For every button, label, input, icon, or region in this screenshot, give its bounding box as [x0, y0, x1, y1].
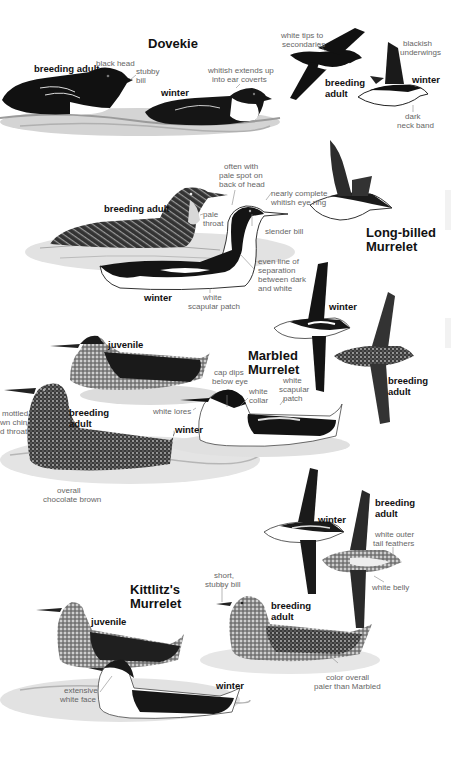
tag-long-billed-breeding: breeding adult: [104, 203, 169, 214]
tag-dovekie-winter: winter: [161, 87, 189, 98]
species-title-kittlitz-line2: Murrelet: [130, 597, 181, 611]
note-blackish-underwings-1: blackish: [403, 39, 432, 48]
field-guide-plate: Dovekie Long-billed Murrelet Marbled Mur…: [0, 0, 453, 766]
note-white-belly: white belly: [372, 583, 409, 592]
note-blackish-underwings-2: underwings: [400, 48, 441, 57]
note-short-bill-1: short,: [214, 571, 234, 580]
note-pale-throat-2: throat: [203, 219, 223, 228]
tag-dovekie-fly-winter: winter: [412, 74, 440, 85]
note-stubby-bill-1: stubby: [136, 67, 160, 76]
tag-long-billed-winter: winter: [144, 292, 172, 303]
tag-marbled-breeding-1: breeding: [69, 407, 109, 418]
note-separation-1: even line of: [258, 257, 299, 266]
note-white-face-1: extensive: [64, 686, 98, 695]
tag-kittlitz-fly-winter: winter: [318, 514, 346, 525]
note-white-outer-tail-1: white outer: [375, 530, 414, 539]
note-separation-2: separation: [258, 266, 295, 275]
note-cap-dips-1: cap dips: [214, 368, 244, 377]
tag-marbled-juvenile: juvenile: [108, 339, 143, 350]
note-marbled-scapular-1: white: [283, 376, 302, 385]
note-cap-dips-2: below eye: [212, 377, 248, 386]
tag-kittlitz-fly-breeding-1: breeding: [375, 497, 415, 508]
tag-marbled-fly-breeding-1: breeding: [388, 375, 428, 386]
note-pale-spot-3: back of head: [219, 180, 265, 189]
note-paler-1: color overall: [326, 673, 369, 682]
species-title-dovekie: Dovekie: [148, 37, 198, 51]
note-pale-throat-1: pale: [203, 210, 218, 219]
tag-marbled-fly-winter: winter: [329, 301, 357, 312]
tag-kittlitz-breeding-1: breeding: [271, 600, 311, 611]
tag-dovekie-fly-breeding-2: adult: [325, 88, 348, 99]
note-marbled-scapular-2: scapular: [279, 385, 309, 394]
note-dark-neck-band-1: dark: [405, 112, 421, 121]
note-chocolate-1: overall: [57, 486, 81, 495]
note-dark-neck-band-2: neck band: [397, 121, 434, 130]
note-chocolate-2: chocolate brown: [43, 495, 101, 504]
note-pale-spot-1: often with: [224, 162, 258, 171]
note-ear-coverts-1: whitish extends up: [208, 66, 274, 75]
page-edge-shadow: [445, 318, 451, 348]
note-white-tips-2: secondaries: [282, 40, 325, 49]
dovekie-breeding-swimming-figure: [2, 68, 133, 115]
note-stubby-bill-2: bill: [136, 76, 146, 85]
long-billed-flying-figure: [310, 140, 392, 220]
tag-marbled-breeding-2: adult: [69, 418, 92, 429]
note-short-bill-2: stubby bill: [205, 580, 241, 589]
tag-marbled-winter: winter: [175, 424, 203, 435]
species-title-marbled-line2: Murrelet: [248, 363, 299, 377]
species-title-long-billed-line1: Long-billed: [366, 226, 436, 240]
tag-kittlitz-breeding-2: adult: [271, 611, 294, 622]
note-slender-bill: slender bill: [265, 227, 303, 236]
note-white-collar-2: collar: [249, 396, 268, 405]
note-eye-ring-2: whitish eye ring: [271, 198, 326, 207]
note-separation-4: and white: [258, 284, 292, 293]
note-mottled-1: mottled: [2, 409, 26, 418]
note-paler-2: paler than Marbled: [314, 682, 381, 691]
note-mottled-2: wn chin: [0, 418, 24, 427]
note-white-outer-tail-2: tail feathers: [373, 539, 414, 548]
note-white-lores: white lores: [153, 407, 191, 416]
note-pale-spot-2: pale spot on: [219, 171, 263, 180]
tag-kittlitz-juvenile: juvenile: [91, 616, 126, 627]
kittlitz-winter-flying-figure: [264, 468, 344, 594]
note-ear-coverts-2: into ear coverts: [212, 75, 267, 84]
note-mottled-3: d throat: [0, 427, 26, 436]
tag-kittlitz-fly-breeding-2: adult: [375, 508, 398, 519]
note-marbled-scapular-3: patch: [283, 394, 303, 403]
species-title-long-billed-line2: Murrelet: [366, 240, 417, 254]
tag-kittlitz-winter: winter: [216, 680, 244, 691]
tag-dovekie-breeding: breeding adult: [34, 63, 99, 74]
page-edge-shadow: [445, 190, 451, 230]
note-separation-3: between dark: [258, 275, 306, 284]
note-white-face-2: white face: [60, 695, 96, 704]
note-scapular-1: white: [203, 293, 222, 302]
kittlitz-juvenile-swimming-figure: [36, 602, 184, 668]
note-white-tips-1: white tips to: [281, 31, 323, 40]
species-title-marbled-line1: Marbled: [248, 349, 298, 363]
note-white-collar-1: white: [249, 387, 268, 396]
note-scapular-2: scapular patch: [188, 302, 240, 311]
tag-dovekie-fly-breeding-1: breeding: [325, 77, 365, 88]
species-title-kittlitz-line1: Kittlitz's: [130, 583, 180, 597]
tag-marbled-fly-breeding-2: adult: [388, 386, 411, 397]
note-eye-ring-1: nearly complete: [271, 189, 327, 198]
note-black-head: black head: [96, 59, 135, 68]
